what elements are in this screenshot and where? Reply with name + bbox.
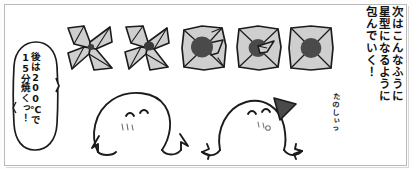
fold-step-2 — [121, 22, 173, 74]
balloon-line-1: 15分焼くっ！ — [20, 52, 30, 142]
blob-character-left — [82, 86, 192, 160]
narration-line-1: 星型になるように — [378, 6, 390, 102]
narration-block: 包んでいく！ 星型になるように 次はこんなふうに — [365, 6, 403, 102]
speech-balloon-text: 15分焼くっ！ 後は200℃で — [20, 52, 54, 142]
fold-step-5 — [285, 22, 337, 74]
fold-step-3 — [178, 22, 230, 74]
hair-triangle — [274, 98, 296, 120]
comic-panel: 15分焼くっ！ 後は200℃で — [0, 0, 411, 170]
fold-step-1 — [64, 22, 116, 74]
panel-baseline — [8, 159, 400, 160]
narration-line-2: 包んでいく！ — [365, 6, 377, 102]
balloon-line-0: 後は200℃で — [30, 52, 40, 142]
speech-balloon: 15分焼くっ！ 後は200℃で — [12, 40, 60, 152]
fold-step-4 — [233, 22, 285, 74]
narration-line-0: 次はこんなふうに — [391, 6, 403, 102]
blob-character-right — [196, 88, 306, 160]
tanoshii-note: たのしぃっ — [329, 92, 340, 132]
